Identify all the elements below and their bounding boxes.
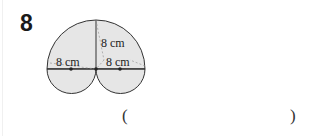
- answer-blank[interactable]: [132, 106, 287, 126]
- vertical-label: 8 cm: [101, 36, 125, 50]
- answer-open-paren: (: [122, 106, 128, 126]
- middle-center-dot: [94, 67, 98, 71]
- left-radius-label: 8 cm: [56, 55, 80, 69]
- answer-close-paren: ): [290, 106, 296, 126]
- right-small-semicircle: [96, 69, 145, 94]
- right-radius-label: 8 cm: [106, 55, 130, 69]
- left-small-semicircle: [47, 69, 96, 94]
